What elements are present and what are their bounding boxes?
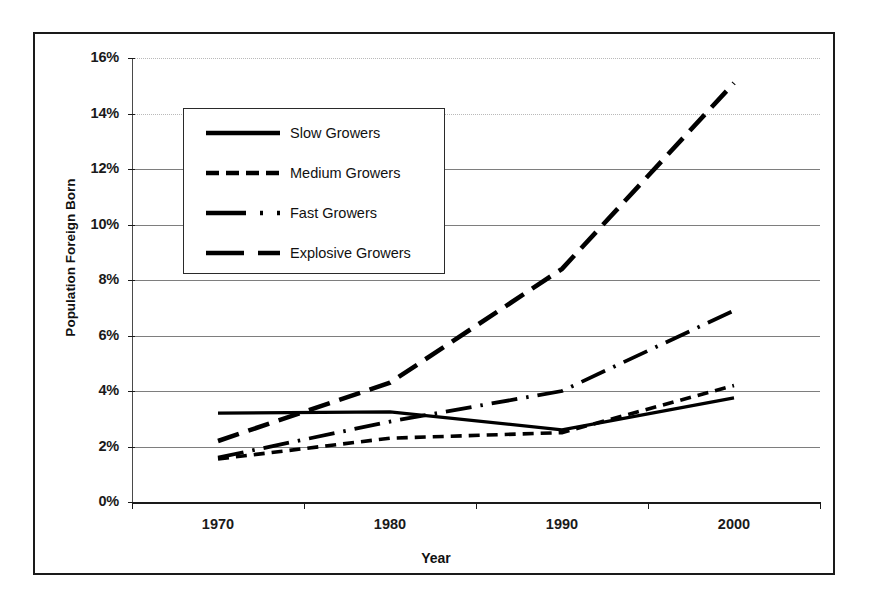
y-axis-tick-label: 8% <box>61 271 119 287</box>
y-axis-tick-mark <box>128 169 135 170</box>
y-axis-tick-label: 16% <box>61 49 119 65</box>
legend-item-explosive-growers: Explosive Growers <box>184 237 444 269</box>
legend-item-fast-growers: Fast Growers <box>184 197 444 229</box>
y-axis-tick-label: 0% <box>61 493 119 509</box>
legend-item-slow-growers: Slow Growers <box>184 117 444 149</box>
y-axis-tick-mark <box>128 336 135 337</box>
x-axis-tick-label: 1990 <box>517 516 607 532</box>
x-axis-tick-mark <box>820 502 821 509</box>
y-axis-tick-mark <box>128 225 135 226</box>
y-axis-tick-label: 12% <box>61 160 119 176</box>
dash-dot-line-swatch <box>204 206 282 220</box>
y-axis-tick-label: 14% <box>61 105 119 121</box>
chart-legend: Slow Growers Medium Growers Fast Growers… <box>183 108 445 274</box>
long-dash-line-swatch <box>204 246 282 260</box>
legend-item-medium-growers: Medium Growers <box>184 157 444 189</box>
x-axis-tick-mark <box>648 502 649 509</box>
y-axis-tick-label: 2% <box>61 438 119 454</box>
y-axis-tick-mark <box>128 391 135 392</box>
y-axis-tick-label: 10% <box>61 216 119 232</box>
legend-label-medium-growers: Medium Growers <box>290 165 400 181</box>
solid-line-swatch <box>204 126 282 140</box>
dashed-line-swatch <box>204 166 282 180</box>
x-axis-tick-label: 1980 <box>345 516 435 532</box>
y-axis-tick-label: 4% <box>61 382 119 398</box>
x-axis-tick-mark <box>132 502 133 509</box>
y-axis-tick-label: 6% <box>61 327 119 343</box>
x-axis-tick-mark <box>304 502 305 509</box>
y-axis-tick-mark <box>128 447 135 448</box>
x-axis-tick-label: 2000 <box>689 516 779 532</box>
x-axis-tick-mark <box>476 502 477 509</box>
y-axis-tick-mark <box>128 114 135 115</box>
y-axis-tick-mark <box>128 280 135 281</box>
legend-label-fast-growers: Fast Growers <box>290 205 377 221</box>
legend-label-slow-growers: Slow Growers <box>290 125 380 141</box>
y-axis-tick-mark <box>128 58 135 59</box>
legend-label-explosive-growers: Explosive Growers <box>290 245 411 261</box>
chart-figure: Population Foreign Born Year Slow Grower… <box>33 32 835 575</box>
x-axis-tick-label: 1970 <box>173 516 263 532</box>
